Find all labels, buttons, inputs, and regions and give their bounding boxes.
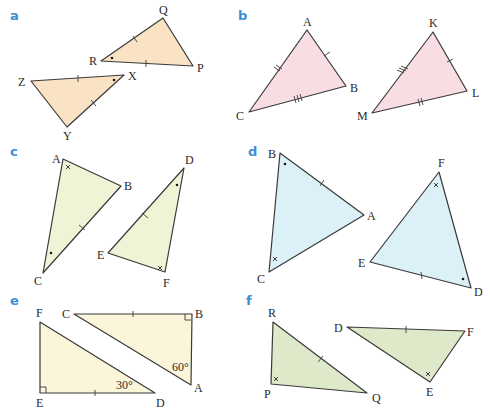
part-f: f R P Q D F E xyxy=(246,293,474,405)
angle-dot xyxy=(50,252,53,255)
part-label-b: b xyxy=(238,8,247,23)
vertex-label-f: F xyxy=(36,306,43,320)
triangle-bac xyxy=(269,153,364,272)
triangle-klm xyxy=(372,32,467,113)
vertex-label-f: F xyxy=(163,276,170,290)
vertex-label-c: C xyxy=(257,272,265,286)
vertex-label-m: M xyxy=(357,109,368,123)
vertex-label-x: X xyxy=(128,69,137,83)
angle-dot xyxy=(113,79,116,82)
vertex-label-z: Z xyxy=(18,75,25,89)
vertex-label-e: E xyxy=(358,256,365,270)
part-label-a: a xyxy=(10,8,19,23)
triangle-dfe xyxy=(347,327,465,382)
part-d: d B A C F E D xyxy=(248,144,483,299)
triangle-abc xyxy=(43,159,121,273)
vertex-label-k: K xyxy=(429,16,438,30)
vertex-label-e: E xyxy=(426,385,433,399)
vertex-label-q: Q xyxy=(372,391,381,405)
angle-dot xyxy=(284,163,287,166)
angle-dot xyxy=(111,57,114,60)
triangle-def xyxy=(108,168,184,272)
vertex-label-d: D xyxy=(185,153,194,167)
vertex-label-e: E xyxy=(36,396,43,410)
triangle-rpq xyxy=(271,322,367,393)
vertex-label-b: B xyxy=(268,147,276,161)
vertex-label-l: L xyxy=(472,86,479,100)
vertex-label-d: D xyxy=(334,321,343,335)
vertex-label-p: P xyxy=(264,387,271,401)
angle-label-30: 30° xyxy=(116,378,133,392)
tick-mark xyxy=(324,52,330,56)
vertex-label-d: D xyxy=(474,285,483,299)
part-a: a Q P R Z X Y xyxy=(10,3,204,143)
vertex-label-c: C xyxy=(236,109,244,123)
part-e: e 60° C B A 30° F E D xyxy=(10,293,203,410)
angle-dot xyxy=(462,278,465,281)
part-label-f: f xyxy=(246,293,252,308)
vertex-label-b: B xyxy=(124,179,132,193)
triangle-qpr xyxy=(101,18,193,66)
vertex-label-d: D xyxy=(156,396,165,410)
vertex-label-r: R xyxy=(268,306,276,320)
part-label-c: c xyxy=(10,144,18,159)
vertex-label-b: B xyxy=(350,81,358,95)
vertex-label-e: E xyxy=(97,248,104,262)
part-c: c A B C D E F xyxy=(10,144,194,290)
part-label-d: d xyxy=(248,144,257,159)
vertex-label-q: Q xyxy=(159,3,168,17)
vertex-label-f: F xyxy=(467,325,474,339)
angle-dot xyxy=(176,184,179,187)
vertex-label-p: P xyxy=(197,61,204,75)
congruent-triangles-figure: a Q P R Z X Y b A B C xyxy=(0,0,490,415)
vertex-label-f: F xyxy=(438,156,445,170)
vertex-label-r: R xyxy=(89,54,97,68)
triangle-fed xyxy=(370,172,471,288)
triangle-abc xyxy=(249,30,346,112)
vertex-label-a: A xyxy=(303,15,312,29)
vertex-label-a: A xyxy=(194,381,203,395)
vertex-label-c: C xyxy=(34,274,42,288)
vertex-label-c: C xyxy=(62,307,70,321)
part-b: b A B C K L M xyxy=(236,8,479,123)
vertex-label-y: Y xyxy=(63,129,72,143)
angle-label-60: 60° xyxy=(172,360,189,374)
vertex-label-a: A xyxy=(52,152,61,166)
vertex-label-a: A xyxy=(367,209,376,223)
part-label-e: e xyxy=(10,293,19,308)
vertex-label-b: B xyxy=(195,307,203,321)
triangle-zxy xyxy=(31,75,124,127)
